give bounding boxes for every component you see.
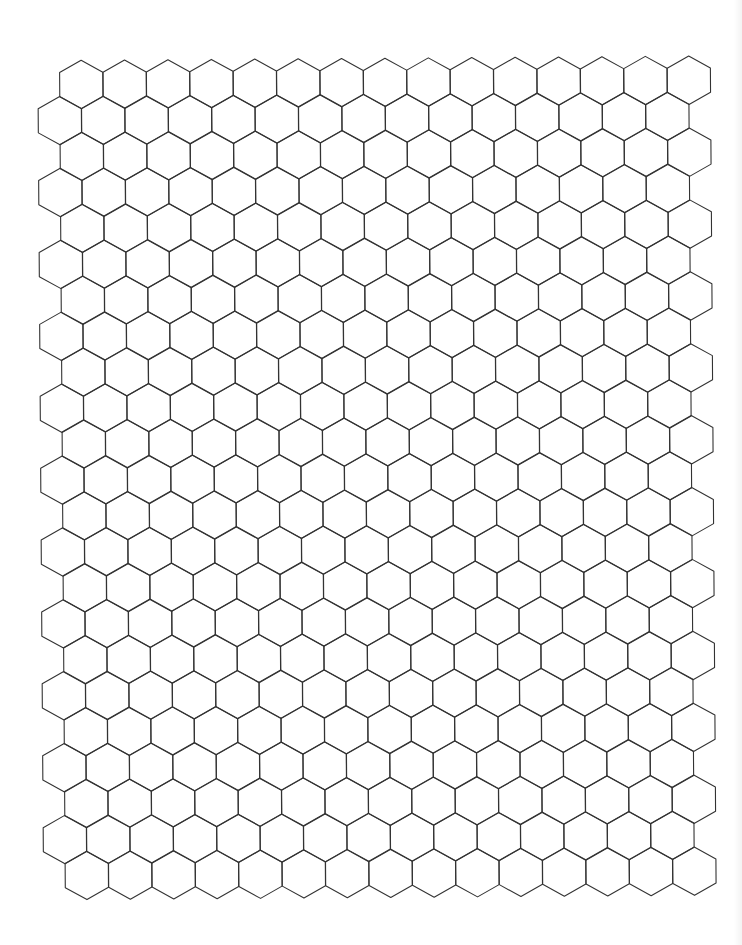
hexagon-cell (650, 667, 694, 716)
hexagon-cell (430, 309, 474, 358)
hexagon-cell (455, 776, 499, 825)
hexagon-cell (303, 742, 347, 791)
hexagon-cell (539, 344, 583, 393)
hexagon-cell (516, 165, 560, 214)
hexagon-cell (345, 597, 389, 646)
hexagon-cell (410, 489, 454, 538)
hexagon-cell (456, 848, 500, 897)
hexagon-cell (434, 813, 478, 862)
hexagon-cell (409, 345, 453, 394)
hexagon-cell (301, 526, 345, 575)
hexagon-cell (367, 633, 411, 682)
hexagon-cell (104, 204, 148, 253)
hexagon-cell (192, 347, 236, 396)
hexagon-cell (233, 59, 277, 108)
hexagon-cell (454, 633, 498, 682)
hexagon-cell (150, 563, 194, 612)
hexagon-cell (368, 777, 412, 826)
hexagon-cell (540, 560, 584, 609)
hexagon-cell (42, 600, 86, 649)
hexagon-cell (602, 92, 646, 141)
hexagon-cell (516, 237, 560, 286)
hexagon-cell (105, 419, 149, 468)
hexagon-cell (324, 634, 368, 683)
hexagon-cell (215, 526, 259, 575)
hexagon-cell (389, 669, 433, 718)
hexagon-cell (61, 276, 105, 325)
hexagon-cell (497, 489, 541, 538)
hexagon-cell (214, 455, 258, 504)
hexagon-cell (648, 380, 692, 429)
hexagon-cell (629, 775, 673, 824)
hexagon-cell (193, 491, 237, 540)
hexagon-cell (562, 524, 606, 573)
hexagon-cell (107, 707, 151, 756)
hexagon-cell (38, 96, 82, 145)
hexagon-cell (281, 634, 325, 683)
hexagon-cell (386, 166, 430, 215)
hexagon-cell (628, 703, 672, 752)
hexagon-cell (625, 200, 669, 249)
hexagon-cell (389, 597, 433, 646)
hexagon-cell (411, 633, 455, 682)
hexagon-cell (452, 273, 496, 322)
hexagon-cell (606, 596, 650, 645)
hexagon-cell (257, 310, 301, 359)
hexagon-cell (169, 239, 213, 288)
hexagon-cell (410, 561, 454, 610)
hexagon-cell (85, 599, 129, 648)
hexagon-cell (62, 420, 106, 469)
hexagon-cell (279, 418, 323, 467)
hexagon-cell (238, 778, 282, 827)
hexagon-cell (669, 344, 713, 393)
hexagon-cell (603, 236, 647, 285)
hexagon-cell (433, 741, 477, 790)
hexagon-cell (235, 275, 279, 324)
hexagon-cell (216, 742, 260, 791)
hexagon-cell (519, 668, 563, 717)
hexagon-cell (107, 635, 151, 684)
hexagon-cell (648, 452, 692, 501)
hexagon-cell (148, 275, 192, 324)
hexagon-cell (129, 743, 173, 792)
hexagon-cell (583, 488, 627, 537)
hexagon-cell (561, 380, 605, 429)
hexagon-cell (667, 56, 711, 105)
hexagon-cell (151, 779, 195, 828)
hexagon-cell (152, 850, 196, 899)
hexagon-cell (651, 811, 695, 860)
hexagon-cell (540, 488, 584, 537)
hexagon-cell (147, 203, 191, 252)
hexagon-cell (518, 524, 562, 573)
hexagon-cell (495, 201, 539, 250)
hexagon-cell (624, 128, 668, 177)
hexagon-cell (496, 345, 540, 394)
hexagon-cell (43, 815, 87, 864)
hexagon-cell (561, 452, 605, 501)
hexagon-cell (564, 812, 608, 861)
hexagon-cell (171, 455, 215, 504)
hexagon-cell (412, 849, 456, 898)
hexagon-cell (626, 344, 670, 393)
hexagon-cell (649, 523, 693, 572)
hexagon-cell (473, 237, 517, 286)
hexagon-cell (173, 814, 217, 863)
hexagon-cell (429, 94, 473, 143)
hexagon-cell (346, 741, 390, 790)
hexagon-cell (472, 93, 516, 142)
hexagon-cell (191, 203, 235, 252)
hexagon-cell (127, 455, 171, 504)
hexagon-cell (563, 740, 607, 789)
hexagon-cell (237, 562, 281, 611)
hexagon-cell (195, 850, 239, 899)
hexagon-cell (213, 311, 257, 360)
hexagon-cell (584, 560, 628, 609)
hexagon-cell (604, 308, 648, 357)
hexagon-cell (302, 670, 346, 719)
hexagon-cell (260, 814, 304, 863)
hexagon-cell (671, 559, 715, 608)
hexagon-cell (40, 312, 84, 361)
hexagon-cell (671, 631, 715, 680)
hexagon-cell (433, 669, 477, 718)
hexagon-cell (344, 454, 388, 503)
